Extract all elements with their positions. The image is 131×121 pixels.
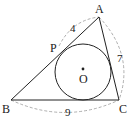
center-point [82,68,85,71]
center-label-o: O [79,72,88,86]
length-label-bc: 9 [65,106,71,118]
point-label-p: P [50,41,57,55]
length-label-ac: 7 [117,52,123,64]
length-label-ap: 4 [70,22,76,34]
vertex-label-c: C [119,102,127,116]
triangle-incircle-diagram: A B C P O 4 7 9 [0,0,131,121]
arc-ap [59,17,99,46]
triangle-abc [11,17,119,100]
vertex-label-b: B [2,102,10,116]
vertex-label-a: A [95,2,104,16]
